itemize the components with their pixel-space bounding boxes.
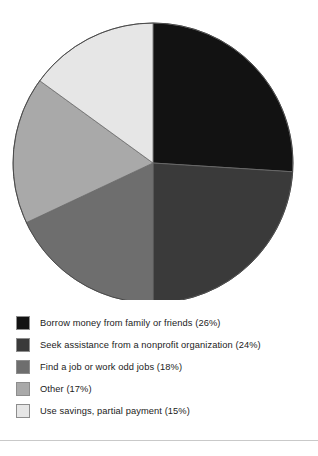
legend-item: Use savings, partial payment (15%)	[0, 400, 318, 422]
legend-swatch-icon	[16, 338, 30, 352]
legend-item-label: Find a job or work odd jobs (18%)	[40, 362, 182, 373]
pie-chart-plot-area	[0, 0, 318, 300]
legend-item-label: Other (17%)	[40, 384, 92, 395]
page-divider-rule	[0, 440, 318, 441]
legend-item-label: Borrow money from family or friends (26%…	[40, 318, 221, 329]
legend-item: Seek assistance from a nonprofit organiz…	[0, 334, 318, 356]
legend-item-label: Seek assistance from a nonprofit organiz…	[40, 340, 261, 351]
legend-swatch-icon	[16, 316, 30, 330]
chart-legend: Borrow money from family or friends (26%…	[0, 312, 318, 422]
legend-item: Find a job or work odd jobs (18%)	[0, 356, 318, 378]
legend-item-label: Use savings, partial payment (15%)	[40, 406, 190, 417]
legend-item: Other (17%)	[0, 378, 318, 400]
pie-chart-svg	[0, 0, 318, 300]
pie-slice	[153, 23, 293, 172]
pie-chart-figure: Borrow money from family or friends (26%…	[0, 0, 318, 456]
pie-slice	[153, 163, 293, 300]
legend-item: Borrow money from family or friends (26%…	[0, 312, 318, 334]
legend-swatch-icon	[16, 360, 30, 374]
legend-swatch-icon	[16, 404, 30, 418]
legend-swatch-icon	[16, 382, 30, 396]
